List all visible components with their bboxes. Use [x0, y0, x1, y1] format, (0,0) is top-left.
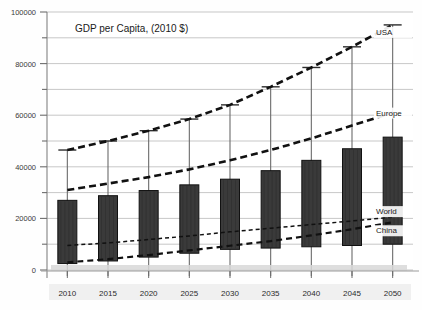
y-tick-label: 40000	[15, 163, 36, 172]
gdp-per-capita-chart: 020000400006000080000100000USAEuropeWorl…	[0, 0, 422, 310]
y-tick-label: 20000	[15, 214, 36, 223]
bar-group	[139, 191, 158, 258]
x-tick-label[interactable]: 2035	[262, 289, 280, 298]
x-tick-label[interactable]: 2020	[140, 289, 158, 298]
y-tick-label: 80000	[15, 60, 36, 69]
x-tick-label[interactable]: 2015	[99, 289, 117, 298]
bar-group	[261, 171, 280, 248]
x-tick-label[interactable]: 2050	[384, 289, 402, 298]
x-tick-label[interactable]: 2030	[221, 289, 239, 298]
series-label-world: World	[376, 207, 397, 216]
chart-title: GDP per Capita, (2010 $)	[75, 23, 188, 34]
baseline-shadow	[51, 265, 407, 271]
x-tick-label[interactable]: 2045	[343, 289, 361, 298]
bar-group	[58, 200, 77, 263]
y-tick-label: 0	[32, 266, 36, 275]
x-tick-label[interactable]: 2010	[58, 289, 76, 298]
x-tick-label[interactable]: 2025	[180, 289, 198, 298]
y-tick-label: 100000	[11, 8, 36, 17]
y-tick-label: 60000	[15, 111, 36, 120]
bar-group	[221, 179, 240, 249]
x-tick-label[interactable]: 2040	[302, 289, 320, 298]
series-label-europe: Europe	[376, 109, 402, 118]
bar-group	[180, 185, 199, 253]
chart-container: 020000400006000080000100000USAEuropeWorl…	[0, 0, 422, 310]
bar-group	[343, 149, 362, 246]
series-label-china: China	[376, 226, 397, 235]
bar-group	[99, 196, 118, 261]
series-label-usa: USA	[376, 28, 393, 37]
